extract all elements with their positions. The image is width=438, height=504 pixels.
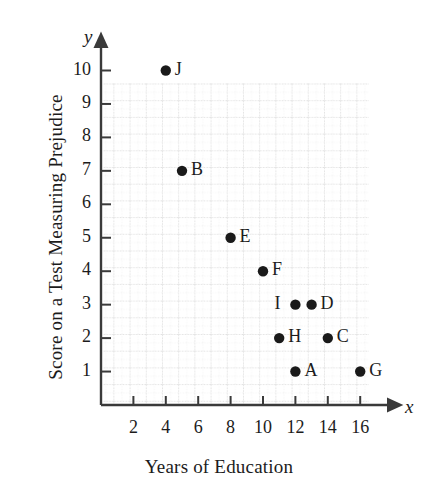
x-tick-label: 12: [280, 417, 310, 438]
y-tick-label: 8: [57, 125, 91, 146]
y-tick-label: 4: [57, 259, 91, 280]
scatterplot-figure: Score on a Test Measuring Prejudice Year…: [0, 0, 438, 504]
data-point-dot: [323, 333, 333, 343]
data-point-label-b: B: [191, 159, 203, 180]
data-point-dot: [274, 333, 284, 343]
x-tick-label: 16: [345, 417, 375, 438]
data-point-dot: [225, 233, 235, 243]
grid-lines: [103, 83, 369, 405]
data-point-label-f: F: [272, 259, 282, 280]
data-point-dot: [355, 366, 365, 376]
data-point-label-g: G: [369, 360, 382, 381]
data-point-label-d: D: [321, 293, 334, 314]
data-point-label-j: J: [175, 59, 182, 80]
data-point-dot: [290, 366, 300, 376]
data-point-dot: [290, 299, 300, 309]
data-point-dot: [306, 299, 316, 309]
y-tick-label: 5: [57, 226, 91, 247]
x-tick-label: 4: [151, 417, 181, 438]
y-tick-label: 1: [57, 360, 91, 381]
y-tick-label: 2: [57, 326, 91, 347]
x-tick-label: 2: [118, 417, 148, 438]
x-tick-label: 10: [248, 417, 278, 438]
y-tick-label: 6: [57, 192, 91, 213]
data-point-label-c: C: [337, 326, 349, 347]
x-tick-label: 14: [313, 417, 343, 438]
y-tick-label: 3: [57, 293, 91, 314]
data-point-dot: [177, 166, 187, 176]
y-tick-label: 7: [57, 159, 91, 180]
data-point-label-i: I: [274, 293, 280, 314]
data-point-label-e: E: [240, 226, 251, 247]
x-tick-label: 6: [183, 417, 213, 438]
data-point-dot: [161, 65, 171, 75]
data-point-label-h: H: [288, 326, 301, 347]
y-tick-label: 10: [57, 59, 91, 80]
x-tick-label: 8: [216, 417, 246, 438]
data-point-dot: [258, 266, 268, 276]
y-tick-label: 9: [57, 92, 91, 113]
data-point-label-a: A: [304, 360, 317, 381]
